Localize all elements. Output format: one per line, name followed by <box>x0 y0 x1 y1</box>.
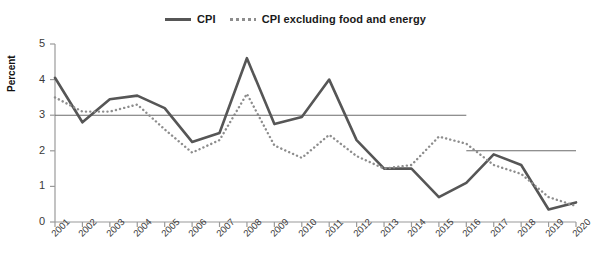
series-line-cpi <box>55 58 576 209</box>
y-tick-label: 2 <box>29 144 45 156</box>
cpi-inflation-chart: CPI CPI excluding food and energy Percen… <box>0 0 591 271</box>
y-tick-label: 1 <box>29 179 45 191</box>
y-tick-label: 4 <box>29 73 45 85</box>
y-tick-label: 3 <box>29 108 45 120</box>
series-line-cpi-ex-food-energy <box>55 94 576 206</box>
y-tick-label: 5 <box>29 37 45 49</box>
y-tick-label: 0 <box>29 215 45 227</box>
